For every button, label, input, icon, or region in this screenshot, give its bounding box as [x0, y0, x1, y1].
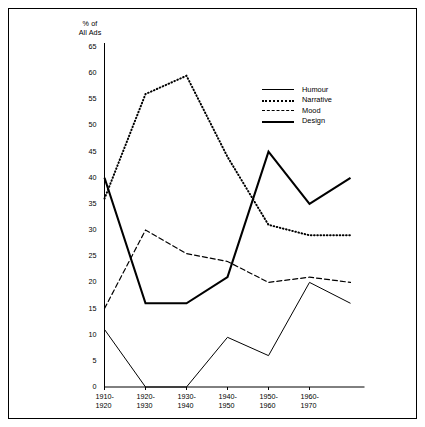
- chart-figure: % of All Ads 05101520253035404550556065 …: [0, 0, 425, 427]
- legend-swatch-design-icon: [262, 116, 294, 125]
- plot-area: [0, 0, 425, 427]
- legend-label-design: Design: [294, 116, 325, 125]
- legend-label-mood: Mood: [294, 106, 321, 115]
- legend-item-narrative: Narrative: [262, 95, 362, 106]
- legend-item-design: Design: [262, 116, 362, 127]
- series-line-humour: [105, 282, 351, 387]
- series-line-mood: [105, 230, 351, 308]
- legend-item-mood: Mood: [262, 105, 362, 116]
- legend-item-humour: Humour: [262, 84, 362, 95]
- legend-swatch-mood-icon: [262, 106, 294, 115]
- legend-swatch-humour-icon: [262, 85, 294, 94]
- chart-legend: Humour Narrative Mood Design: [262, 84, 362, 126]
- series-line-design: [105, 152, 351, 304]
- legend-label-narrative: Narrative: [294, 95, 332, 104]
- legend-label-humour: Humour: [294, 85, 328, 94]
- legend-swatch-narrative-icon: [262, 95, 294, 104]
